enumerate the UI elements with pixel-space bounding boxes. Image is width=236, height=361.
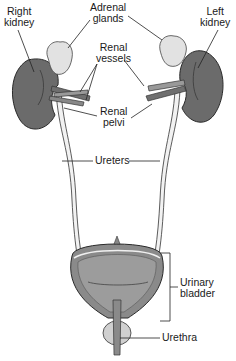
left-adrenal-gland [160, 36, 187, 67]
label-adrenal-glands: Adrenal glands [90, 2, 126, 24]
label-right-kidney: Right kidney [4, 6, 34, 28]
label-renal-vessels: Renal vessels [96, 42, 131, 64]
urinary-system-diagram: Right kidney Adrenal glands Left kidney … [0, 0, 236, 361]
label-urinary-bladder: Urinary bladder [180, 277, 215, 299]
renal-vessels-illustration [49, 80, 186, 106]
label-ureters: Ureters [95, 155, 129, 166]
label-urethra: Urethra [162, 332, 197, 343]
label-left-kidney: Left kidney [200, 6, 230, 28]
right-kidney-illustration [12, 59, 58, 129]
label-renal-pelvi: Renal pelvi [100, 106, 127, 128]
